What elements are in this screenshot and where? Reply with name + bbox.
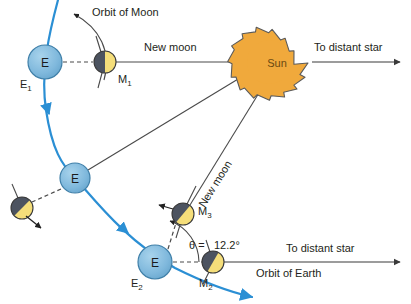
moon-3-motion-arrow xyxy=(159,205,173,209)
moon-left-spoke-up xyxy=(12,184,18,198)
label-moon-2: M2 xyxy=(199,278,213,292)
label-moon-3-letter: M xyxy=(198,205,207,217)
line-moon3-to-sun-new-moon xyxy=(190,88,262,205)
line-earth2-to-moon3 xyxy=(168,223,176,249)
label-moon-2-letter: M xyxy=(199,277,208,289)
moon-2-spoke-up xyxy=(206,240,210,252)
moon-left-motion-arrow xyxy=(26,216,41,228)
moon-3-spoke-down xyxy=(176,225,180,238)
label-theta-value: 12.2° xyxy=(214,240,240,251)
label-orbit-of-earth: Orbit of Earth xyxy=(256,268,321,279)
earth-mid: E xyxy=(60,163,90,193)
earth-orbit-arc-upper xyxy=(44,0,75,178)
label-moon-3: M3 xyxy=(198,206,212,220)
line-earth-mid-to-sun xyxy=(88,70,253,170)
earth-2-letter: E xyxy=(151,256,159,270)
label-earth-2-sub: 2 xyxy=(138,283,142,292)
label-earth-1: E1 xyxy=(20,79,32,93)
label-theta-symbol: θ = xyxy=(189,240,205,251)
label-to-distant-star-top: To distant star xyxy=(314,42,382,53)
sun: Sun xyxy=(228,27,308,100)
label-orbit-of-moon: Orbit of Moon xyxy=(92,7,159,18)
label-earth-1-sub: 1 xyxy=(27,84,31,93)
label-new-moon-top: New moon xyxy=(144,42,197,53)
label-moon-1: M1 xyxy=(118,74,132,88)
moon-left-dark-half xyxy=(2,188,42,228)
earth-orbit-arc-lower xyxy=(75,178,252,297)
label-earth-2: E2 xyxy=(131,278,143,292)
earth-1-letter: E xyxy=(41,56,49,70)
moon-3-spoke-up xyxy=(187,186,196,204)
earth-mid-letter: E xyxy=(71,172,79,186)
earth-2: E xyxy=(138,245,172,279)
moon-1-spoke-down xyxy=(98,73,102,88)
line-earth-mid-to-moon-left xyxy=(32,189,61,202)
moon-left xyxy=(2,184,43,229)
astronomy-diagram: Sun E E E xyxy=(0,0,411,304)
label-to-distant-star-bottom: To distant star xyxy=(286,243,354,254)
earth-1: E xyxy=(28,45,62,79)
sight-lines-group xyxy=(32,62,400,262)
sun-label: Sun xyxy=(267,57,287,69)
label-moon-1-sub: 1 xyxy=(127,79,131,88)
label-moon-1-letter: M xyxy=(118,73,127,85)
label-moon-2-sub: 2 xyxy=(208,283,212,292)
label-moon-3-sub: 3 xyxy=(207,211,211,220)
